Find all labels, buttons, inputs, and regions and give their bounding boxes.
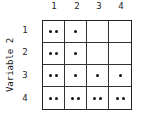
dot-marker [55,74,58,77]
grid-cell-r1-c1 [43,21,65,43]
dot-marker [116,97,119,100]
dot-marker [122,97,125,100]
grid-cell-r3-c2 [65,65,87,87]
grid-cell-r3-c1 [43,65,65,87]
dot-marker [74,74,77,77]
column-label-4: 4 [110,1,132,11]
row-label-3: 3 [20,70,30,80]
row-label-2: 2 [20,47,30,57]
dot-marker [55,30,58,33]
column-label-3: 3 [88,1,110,11]
dot-marker [74,52,77,55]
row-label-4: 4 [20,93,30,103]
row-label-1: 1 [20,25,30,35]
grid-cell-r1-c2 [65,21,87,43]
dot-marker [55,97,58,100]
dot-marker [99,97,102,100]
dot-marker [119,74,122,77]
grid-cell-r2-c2 [65,43,87,65]
grid-cell-r2-c3 [87,43,109,65]
grid-cell-r3-c3 [87,65,109,87]
dot-marker [93,97,96,100]
dot-marker [77,97,80,100]
dot-marker [49,30,52,33]
grid-cell-r1-c3 [87,21,109,43]
dot-marker [71,97,74,100]
y-axis-title: Variable 2 [5,35,15,95]
dot-marker [96,74,99,77]
grid-cell-r2-c1 [43,43,65,65]
column-label-2: 2 [66,1,88,11]
dot-marker [49,97,52,100]
dot-marker [74,30,77,33]
column-label-1: 1 [43,1,65,11]
grid-cell-r4-c1 [43,87,65,109]
contingency-grid [42,20,132,110]
dot-marker [55,52,58,55]
dot-marker [49,52,52,55]
dot-marker [49,74,52,77]
grid-cell-r4-c3 [87,87,109,109]
grid-cell-r3-c4 [109,65,131,87]
grid-cell-r4-c2 [65,87,87,109]
grid-cell-r1-c4 [109,21,131,43]
grid-cell-r2-c4 [109,43,131,65]
grid-cell-r4-c4 [109,87,131,109]
